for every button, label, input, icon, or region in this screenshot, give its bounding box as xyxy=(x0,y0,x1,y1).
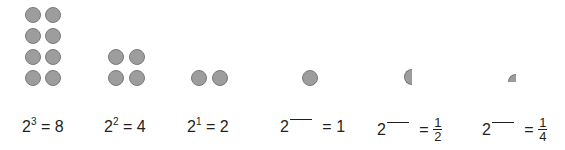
exponent: 3 xyxy=(31,116,37,127)
result: 4 xyxy=(137,118,146,135)
dot xyxy=(45,70,61,86)
result-fraction: 1 2 xyxy=(433,116,442,143)
equation-6: 2 = 1 4 xyxy=(482,117,547,144)
exponent-blank[interactable] xyxy=(387,122,409,123)
result-fraction: 1 4 xyxy=(538,116,547,143)
equals-sign: = xyxy=(524,121,533,138)
exponent: 1 xyxy=(196,116,202,127)
equation-3: 21 = 2 xyxy=(187,117,229,139)
equals-sign: = xyxy=(206,118,215,135)
dot xyxy=(45,28,61,44)
equals-sign: = xyxy=(322,118,331,135)
equals-sign: = xyxy=(419,121,428,138)
equals-sign: = xyxy=(123,118,132,135)
base: 2 xyxy=(187,118,196,135)
dot xyxy=(25,49,41,65)
dot xyxy=(108,70,124,86)
dot xyxy=(191,70,207,86)
equals-sign: = xyxy=(41,118,50,135)
dot xyxy=(25,70,41,86)
equation-5: 2 = 1 2 xyxy=(377,117,442,144)
dot xyxy=(25,28,41,44)
dot xyxy=(25,7,41,23)
base: 2 xyxy=(482,121,491,138)
dot xyxy=(45,7,61,23)
denominator: 2 xyxy=(434,130,441,143)
result: 8 xyxy=(55,118,64,135)
base: 2 xyxy=(104,118,113,135)
dot xyxy=(129,70,145,86)
numerator: 1 xyxy=(538,116,547,130)
denominator: 4 xyxy=(539,130,546,143)
base: 2 xyxy=(22,118,31,135)
exponent-blank[interactable] xyxy=(492,122,514,123)
dot xyxy=(212,70,228,86)
exponent-blank[interactable] xyxy=(290,119,312,120)
equation-1: 23 = 8 xyxy=(22,117,64,139)
exponent: 2 xyxy=(113,116,119,127)
result: 2 xyxy=(220,118,229,135)
dot xyxy=(45,49,61,65)
numerator: 1 xyxy=(433,116,442,130)
base: 2 xyxy=(377,121,386,138)
equation-2: 22 = 4 xyxy=(104,117,146,139)
dot xyxy=(302,70,318,86)
dot xyxy=(129,49,145,65)
base: 2 xyxy=(280,118,289,135)
half-dot xyxy=(404,69,412,85)
dot xyxy=(108,49,124,65)
quarter-dot xyxy=(508,74,516,82)
equation-4: 2 = 1 xyxy=(280,117,345,137)
result: 1 xyxy=(336,118,345,135)
